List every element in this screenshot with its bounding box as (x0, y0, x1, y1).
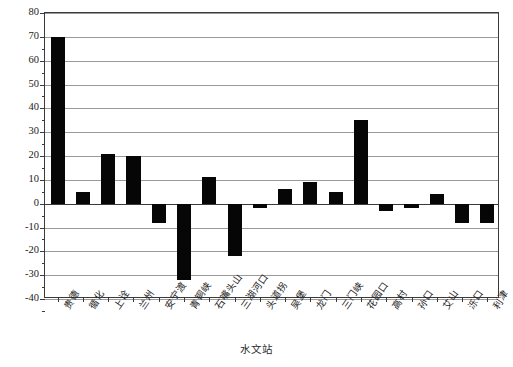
x-tick (386, 297, 387, 302)
x-tick (108, 297, 109, 302)
y-tick-minor (42, 192, 45, 193)
y-tick-50 (40, 85, 45, 86)
x-tick (462, 297, 463, 302)
gridline-80 (45, 13, 498, 14)
y-tick-label: -30 (5, 269, 39, 279)
y-tick-minor (42, 263, 45, 264)
gridline--10 (45, 228, 498, 229)
y-tick-0 (40, 204, 45, 205)
y-tick-minor (42, 216, 45, 217)
y-tick-label: -20 (5, 245, 39, 255)
y-tick-minor (42, 144, 45, 145)
bar (329, 192, 343, 204)
y-tick-label: 50 (5, 79, 39, 89)
bar (303, 182, 317, 203)
plot-area (44, 12, 499, 298)
y-tick-minor (42, 239, 45, 240)
chart-figure: 径流量比例/% -40-30-20-1001020304050607080 贵德… (0, 0, 513, 367)
y-tick-label: 30 (5, 126, 39, 136)
x-tick (184, 297, 185, 302)
y-tick-label: -10 (5, 222, 39, 232)
gridline-40 (45, 108, 498, 109)
bar (51, 37, 65, 204)
y-tick-label: -40 (5, 293, 39, 303)
y-tick-label: 70 (5, 31, 39, 41)
y-tick-60 (40, 61, 45, 62)
y-tick-70 (40, 37, 45, 38)
bar (202, 177, 216, 203)
x-tick (235, 297, 236, 302)
y-tick-label: 80 (5, 7, 39, 17)
bar (253, 204, 267, 209)
x-tick (285, 297, 286, 302)
y-tick-minor (42, 73, 45, 74)
x-tick (159, 297, 160, 302)
y-tick-40 (40, 108, 45, 109)
gridline-60 (45, 61, 498, 62)
x-tick (133, 297, 134, 302)
y-tick--40 (40, 299, 45, 300)
bar (404, 204, 418, 209)
y-tick-minor (42, 311, 45, 312)
gridline-70 (45, 37, 498, 38)
bar (101, 154, 115, 204)
y-tick-label: 20 (5, 150, 39, 160)
y-tick-minor (42, 49, 45, 50)
y-tick-label: 10 (5, 174, 39, 184)
bar (177, 204, 191, 280)
gridline-0 (45, 204, 498, 205)
x-tick (58, 297, 59, 302)
gridline-50 (45, 85, 498, 86)
y-tick-minor (42, 120, 45, 121)
gridline-30 (45, 132, 498, 133)
y-tick-10 (40, 180, 45, 181)
y-tick--10 (40, 228, 45, 229)
x-tick (336, 297, 337, 302)
bar (455, 204, 469, 223)
y-tick-minor (42, 96, 45, 97)
x-tick (361, 297, 362, 302)
x-tick (260, 297, 261, 302)
y-tick-30 (40, 132, 45, 133)
y-tick--30 (40, 275, 45, 276)
y-tick--20 (40, 251, 45, 252)
bar (354, 120, 368, 203)
bar (430, 194, 444, 204)
x-tick (209, 297, 210, 302)
y-tick-label: 60 (5, 55, 39, 65)
x-tick (412, 297, 413, 302)
y-tick-80 (40, 13, 45, 14)
bar (379, 204, 393, 211)
x-axis-title: 水文站 (0, 341, 513, 356)
x-tick (310, 297, 311, 302)
bar (126, 156, 140, 204)
y-tick-20 (40, 156, 45, 157)
x-tick (487, 297, 488, 302)
gridline--20 (45, 251, 498, 252)
gridline--30 (45, 275, 498, 276)
bar (228, 204, 242, 256)
y-tick-minor (42, 287, 45, 288)
x-tick (437, 297, 438, 302)
bar (152, 204, 166, 223)
bar (76, 192, 90, 204)
bar (278, 189, 292, 203)
x-tick (83, 297, 84, 302)
y-tick-label: 0 (5, 198, 39, 208)
y-tick-minor (42, 168, 45, 169)
y-tick-label: 40 (5, 102, 39, 112)
bar (480, 204, 494, 223)
